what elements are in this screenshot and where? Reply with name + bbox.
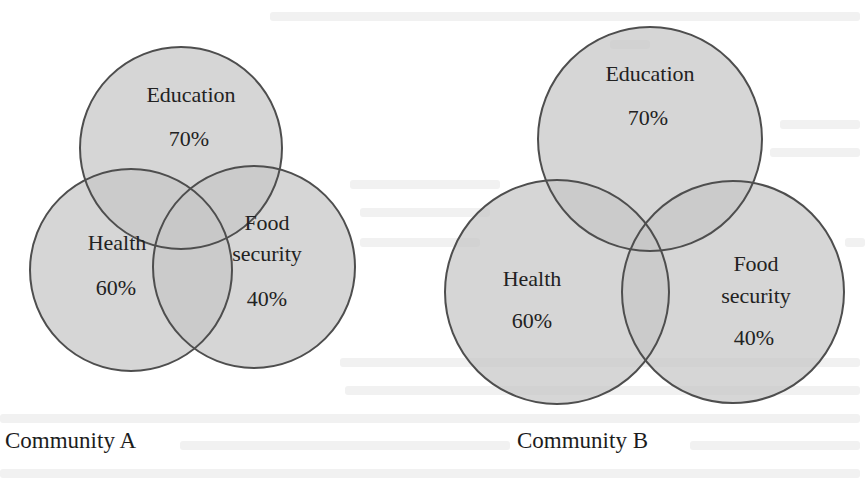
label-education-a: Education [146,82,235,107]
caption-community-b: Community B [517,427,648,455]
label-security-a: security [232,241,302,266]
value-food-security-b: 40% [734,325,774,350]
venn-community-b: Education 70% Health 60% Food security 4… [445,27,844,404]
value-food-security-a: 40% [247,286,287,311]
venn-diagrams: Education 70% Health 60% Food security 4… [0,0,867,480]
label-food-a: Food [244,210,289,235]
value-education-a: 70% [169,126,209,151]
venn-community-a: Education 70% Health 60% Food security 4… [30,47,355,371]
value-education-b: 70% [628,105,668,130]
circle-food-security-a [153,166,355,368]
value-health-a: 60% [96,275,136,300]
caption-community-a: Community A [5,427,136,455]
label-education-b: Education [605,61,694,86]
label-security-b: security [721,283,791,308]
label-food-b: Food [733,251,778,276]
label-health-a: Health [88,230,147,255]
label-health-b: Health [503,266,562,291]
value-health-b: 60% [512,308,552,333]
